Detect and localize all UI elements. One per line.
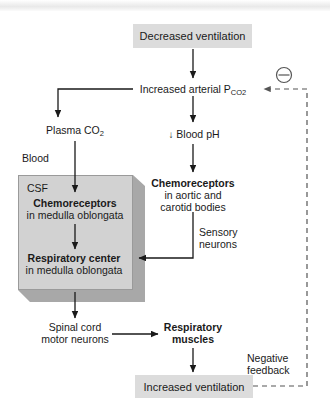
decreased-ventilation-label: Decreased ventilation bbox=[140, 30, 246, 42]
sensory-neurons-line2: neurons bbox=[199, 238, 259, 250]
plasma-co2-subscript: 2 bbox=[100, 129, 104, 138]
pco2-subscript: CO2 bbox=[231, 88, 246, 97]
diagram-canvas: Decreased ventilation Increased ventilat… bbox=[0, 0, 330, 410]
blood-ph-text: Blood pH bbox=[176, 128, 219, 140]
plasma-co2-main-text: Plasma CO bbox=[46, 124, 100, 136]
negative-feedback-line1: Negative bbox=[247, 352, 301, 364]
label-decreased-blood-ph: ↓ Blood pH bbox=[158, 128, 230, 141]
arrow-pco2-to-plasma-co2 bbox=[58, 89, 133, 117]
dashed-negative-feedback-path bbox=[253, 89, 307, 386]
csf-label-text: CSF bbox=[27, 182, 48, 194]
arrow-sensory-neurons-to-respiratory-center bbox=[139, 212, 193, 258]
label-respiratory-center: Respiratory center in medulla oblongata bbox=[10, 252, 138, 276]
respiratory-center-subtitle: in medulla oblongata bbox=[10, 264, 138, 276]
peripheral-chemoreceptors-line2: carotid bodies bbox=[138, 201, 248, 213]
negative-feedback-line2: feedback bbox=[247, 364, 301, 376]
node-increased-ventilation: Increased ventilation bbox=[135, 375, 253, 398]
label-blood-compartment: Blood bbox=[22, 152, 49, 164]
spinal-cord-line1: Spinal cord bbox=[18, 321, 132, 333]
label-csf-compartment: CSF bbox=[27, 182, 48, 194]
down-arrow-icon: ↓ bbox=[168, 129, 173, 140]
increased-ventilation-label: Increased ventilation bbox=[144, 381, 245, 393]
peripheral-chemoreceptors-line1: in aortic and bbox=[138, 189, 248, 201]
central-chemoreceptors-subtitle: in medulla oblongata bbox=[14, 209, 136, 221]
respiratory-center-title: Respiratory center bbox=[10, 252, 138, 264]
blood-label-text: Blood bbox=[22, 152, 49, 164]
label-plasma-co2: Plasma CO2 bbox=[25, 124, 125, 140]
central-chemoreceptors-title: Chemoreceptors bbox=[14, 197, 136, 209]
label-central-chemoreceptors: Chemoreceptors in medulla oblongata bbox=[14, 197, 136, 221]
label-negative-feedback: Negative feedback bbox=[247, 352, 301, 376]
spinal-cord-line2: motor neurons bbox=[18, 333, 132, 345]
respiratory-muscles-line2: muscles bbox=[152, 333, 234, 345]
label-peripheral-chemoreceptors: Chemoreceptors in aortic and carotid bod… bbox=[138, 177, 248, 213]
label-spinal-cord-motor-neurons: Spinal cord motor neurons bbox=[18, 321, 132, 345]
sensory-neurons-line1: Sensory bbox=[199, 226, 259, 238]
label-respiratory-muscles: Respiratory muscles bbox=[152, 321, 234, 345]
minus-circle-icon bbox=[277, 68, 292, 83]
peripheral-chemoreceptors-title: Chemoreceptors bbox=[138, 177, 248, 189]
node-decreased-ventilation: Decreased ventilation bbox=[133, 24, 252, 48]
pco2-main-text: Increased arterial P bbox=[140, 83, 231, 95]
respiratory-muscles-line1: Respiratory bbox=[152, 321, 234, 333]
label-sensory-neurons: Sensory neurons bbox=[199, 226, 259, 250]
label-increased-arterial-pco2: Increased arterial PCO2 bbox=[133, 83, 253, 99]
